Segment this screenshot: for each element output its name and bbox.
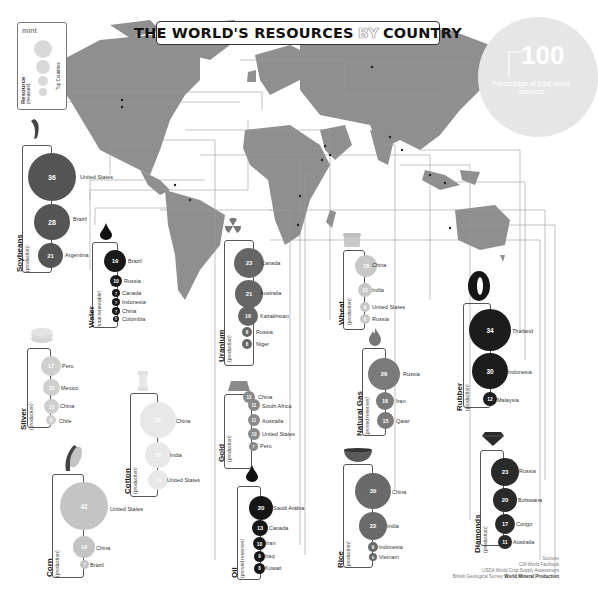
cotton-label: Cotton(production)	[124, 467, 138, 494]
rice-circle-4: 6	[369, 553, 377, 561]
oil-country-2: Canada	[269, 525, 288, 531]
flame-icon	[369, 328, 381, 346]
scale-key-bracket	[508, 50, 522, 78]
cotton-circle-3: 14	[148, 470, 168, 490]
diamonds-country-1: Russia	[519, 468, 536, 474]
gold-country-2: South Africa	[262, 403, 292, 409]
gold-circle-3: 11	[248, 414, 260, 426]
scale-key-caption: Percentage of total world resource	[488, 80, 574, 96]
cotton-spool-icon	[135, 371, 151, 391]
diamonds-label: Diamonds(production)	[474, 514, 488, 553]
soybeans-country-3: Argentina	[65, 252, 89, 258]
gold-circle-2: 11	[248, 399, 260, 411]
water-country-2: Russia	[124, 278, 141, 284]
soybeans-circle-2: 28	[34, 204, 70, 240]
rubber-circle-3: 12	[483, 392, 497, 406]
legend-circle	[36, 60, 50, 74]
cotton-country-1: China	[176, 418, 190, 424]
oil-circle-5: 8	[254, 563, 265, 574]
corn-country-1: United States	[110, 506, 143, 512]
uranium-label: Uranium(production)	[218, 330, 232, 362]
diamonds-country-2: Botswana	[518, 497, 542, 503]
silver-country-2: Mexico	[61, 385, 78, 391]
rice-country-1: China	[392, 489, 406, 495]
uranium-circle-2: 21	[235, 280, 263, 308]
gold-country-5: Peru	[260, 443, 272, 449]
diamonds-circle-3: 17	[495, 514, 515, 534]
corn-circle-2: 19	[73, 536, 95, 558]
oil-circle-3: 10	[253, 537, 266, 550]
water-circle-5: 7	[112, 307, 120, 315]
corn-icon	[62, 443, 82, 473]
gold-label: Gold(production)	[218, 435, 232, 462]
uranium-circle-1: 23	[234, 248, 264, 278]
wheat-circle-4: 8	[360, 314, 370, 324]
oil-drop-icon	[246, 465, 258, 482]
corn-country-2: China	[96, 545, 110, 551]
water-drop-icon	[100, 223, 112, 240]
natural-gas-country-2: Iran	[396, 398, 405, 404]
uranium-country-2: Australia	[260, 290, 281, 296]
soybeans-country-1: United States	[80, 174, 113, 180]
uranium-circle-4: 8	[242, 327, 252, 337]
corn-country-3: Brazil	[90, 562, 104, 568]
uranium-country-4: Russia	[256, 329, 273, 335]
natural-gas-circle-3: 15	[377, 412, 394, 429]
legend-circle	[39, 88, 47, 96]
rubber-circle-2: 30	[472, 353, 508, 389]
corn-circle-3: 7	[80, 560, 89, 569]
rice-bowl-icon	[344, 448, 372, 462]
corn-label: Corn(production)	[46, 550, 60, 577]
uranium-country-1: Canada	[261, 260, 280, 266]
water-country-6: Colombia	[122, 316, 145, 322]
wheat-country-2: India	[372, 287, 384, 293]
radiation-icon	[225, 218, 241, 234]
silver-coins-icon	[30, 328, 54, 344]
diamonds-circle-4: 11	[498, 535, 512, 549]
rubber-country-3: Malaysia	[497, 397, 519, 403]
diamonds-circle-2: 20	[493, 488, 517, 512]
water-label: Water(total renewable)	[88, 291, 102, 328]
water-country-1: Brazil	[128, 258, 142, 264]
wheat-circle-2: 12	[358, 283, 372, 297]
rubber-country-2: Indonesia	[508, 369, 532, 375]
uranium-country-5: Niger	[256, 341, 269, 347]
wheat-country-3: United States	[372, 304, 405, 310]
silver-circle-4: 8	[46, 415, 56, 425]
tire-icon	[467, 270, 491, 302]
gold-circle-5: 7	[249, 442, 258, 451]
legend-resource-sub: (measure)	[26, 83, 31, 104]
wheat-label: Wheat(production)	[338, 298, 352, 325]
rice-country-3: Indonesia	[379, 544, 403, 550]
rubber-label: Rubber(production)	[456, 383, 470, 411]
natural-gas-country-1: Russia	[403, 371, 420, 377]
sources: Sources CIA World Factbook USDA World Cr…	[453, 556, 559, 580]
oil-label: Oil(proved reserves)	[231, 539, 245, 578]
rubber-circle-1: 34	[469, 309, 511, 351]
water-country-4: Indonesia	[122, 299, 146, 305]
page-title: THE WORLD'S RESOURCES BY COUNTRY	[156, 21, 440, 45]
scale-key-value: 100	[521, 40, 564, 71]
diamond-icon	[482, 432, 504, 446]
rice-country-2: India	[387, 523, 399, 529]
silver-circle-2: 15	[43, 379, 60, 396]
cotton-circle-2: 20	[145, 442, 171, 468]
silver-label: Silver(production)	[20, 403, 34, 430]
oil-country-1: Saudi Arabia	[273, 505, 304, 511]
gold-bar-icon	[228, 381, 250, 391]
rice-circle-1: 30	[355, 473, 391, 509]
soybeans-circle-1: 36	[28, 153, 76, 201]
oil-country-3: Iran	[266, 540, 275, 546]
scale-key-circle	[478, 17, 598, 137]
natural-gas-circle-1: 26	[368, 358, 400, 390]
oil-circle-4: 9	[254, 551, 265, 562]
silver-country-3: China	[60, 403, 74, 409]
rice-circle-3: 9	[368, 542, 378, 552]
cotton-circle-1: 31	[140, 402, 176, 438]
water-circle-1: 19	[104, 250, 126, 272]
uranium-country-3: Kazakhstan	[260, 313, 289, 319]
oil-circle-1: 20	[249, 496, 273, 520]
legend-countries-label: Top Countries	[56, 62, 61, 90]
diamonds-circle-1: 23	[491, 458, 519, 486]
water-circle-6: 5	[113, 316, 119, 322]
